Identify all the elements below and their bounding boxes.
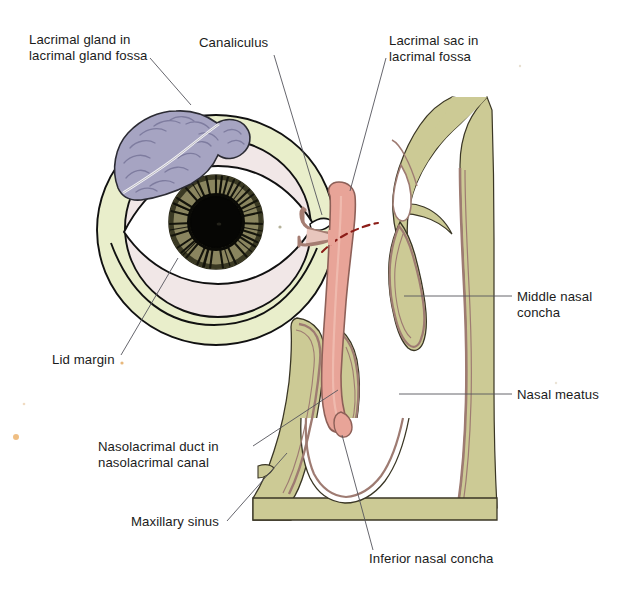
label-lacrimal-gland: Lacrimal gland inlacrimal gland fossa — [29, 32, 148, 63]
label-nasal-meatus: Nasal meatus — [517, 387, 599, 402]
label-line: Inferior nasal concha — [369, 551, 494, 566]
label-line: Maxillary sinus — [131, 514, 219, 529]
label-line: concha — [517, 305, 561, 320]
pupil-highlight — [217, 222, 222, 225]
label-line: nasolacrimal canal — [98, 455, 209, 470]
label-line: Nasolacrimal duct in — [98, 439, 219, 454]
inferior-meatus-curve — [301, 418, 409, 503]
label-lacrimal-sac: Lacrimal sac inlacrimal fossa — [389, 33, 478, 64]
label-line: Nasal meatus — [517, 387, 599, 402]
label-line: lacrimal gland fossa — [29, 48, 148, 63]
label-line: Middle nasal — [517, 289, 592, 304]
label-lid-margin: Lid margin — [52, 352, 115, 367]
label-line: Lid margin — [52, 352, 115, 367]
nasal-floor — [253, 498, 497, 520]
label-inferior-nasal-concha: Inferior nasal concha — [369, 551, 494, 566]
label-maxillary-sinus: Maxillary sinus — [131, 514, 219, 529]
leader-line-lacrimal-sac — [350, 58, 386, 191]
label-line: Canaliculus — [199, 35, 269, 50]
caruncle-speck — [278, 225, 281, 228]
label-line: lacrimal fossa — [389, 49, 472, 64]
label-canaliculus: Canaliculus — [199, 35, 269, 50]
lacrimal-apparatus-illustration: Lacrimal gland inlacrimal gland fossaCan… — [0, 0, 625, 590]
pupil — [191, 197, 241, 247]
label-line: Lacrimal gland in — [29, 32, 130, 47]
leader-line-lacrimal-gland — [150, 58, 191, 105]
label-middle-nasal-concha: Middle nasalconcha — [517, 289, 592, 320]
anatomy-figure: Lacrimal gland inlacrimal gland fossaCan… — [0, 0, 625, 590]
canaliculus-sac-junction — [328, 230, 335, 245]
label-nasolacrimal-duct: Nasolacrimal duct innasolacrimal canal — [98, 439, 219, 470]
label-line: Lacrimal sac in — [389, 33, 478, 48]
